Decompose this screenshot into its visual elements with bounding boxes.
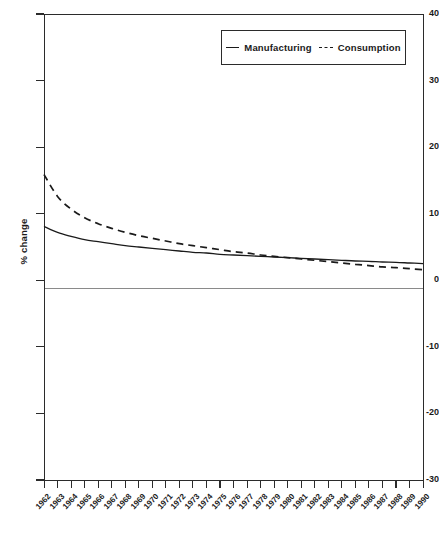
chart-plot-area — [0, 0, 439, 545]
legend-item-consumption: Consumption — [319, 42, 401, 53]
chart-legend: Manufacturing Consumption — [221, 30, 406, 65]
chart-figure: % change 403020100-10-20-30 196219631964… — [0, 0, 439, 545]
legend-label-manufacturing: Manufacturing — [244, 42, 311, 53]
legend-label-consumption: Consumption — [338, 42, 401, 53]
legend-item-manufacturing: Manufacturing — [226, 42, 311, 53]
series-line-manufacturing — [44, 226, 423, 263]
legend-solid-line-icon — [226, 47, 239, 48]
legend-dashed-line-icon — [319, 47, 333, 48]
